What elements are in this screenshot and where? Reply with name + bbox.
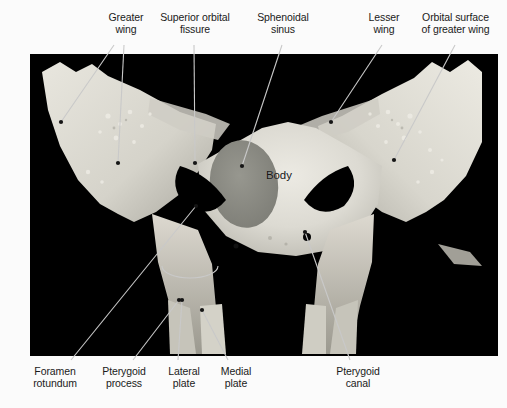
label-orbital-surface-of-greater-wing: Orbital surface of greater wing <box>408 12 503 35</box>
left-medial-plate <box>200 304 226 354</box>
label-lateral-plate: Lateral plate <box>158 366 210 389</box>
label-body: Body <box>266 170 306 182</box>
label-superior-orbital-fissure: Superior orbital fissure <box>152 12 238 35</box>
label-foramen-rotundum: Foramen rotundum <box>20 366 90 389</box>
label-lesser-wing: Lesser wing <box>360 12 408 35</box>
foramen-rotundum-opening <box>191 201 202 212</box>
label-greater-wing: Greater wing <box>97 12 155 35</box>
pterygoid-canal-opening <box>210 234 220 244</box>
right-pterygoid-canal-opening <box>303 233 311 241</box>
label-sphenoidal-sinus: Sphenoidal sinus <box>249 12 317 35</box>
right-foramen-rotundum-opening <box>328 202 337 211</box>
label-pterygoid-process: Pterygoid process <box>92 366 156 389</box>
sphenoid-bone-photograph <box>30 54 498 356</box>
label-medial-plate: Medial plate <box>210 366 262 389</box>
label-pterygoid-canal: Pterygoid canal <box>328 366 388 389</box>
bone-illustration <box>30 54 498 356</box>
small-foramen <box>234 244 239 249</box>
anatomical-figure: Greater wing Superior orbital fissure Sp… <box>0 0 507 408</box>
right-medial-plate <box>302 304 326 354</box>
